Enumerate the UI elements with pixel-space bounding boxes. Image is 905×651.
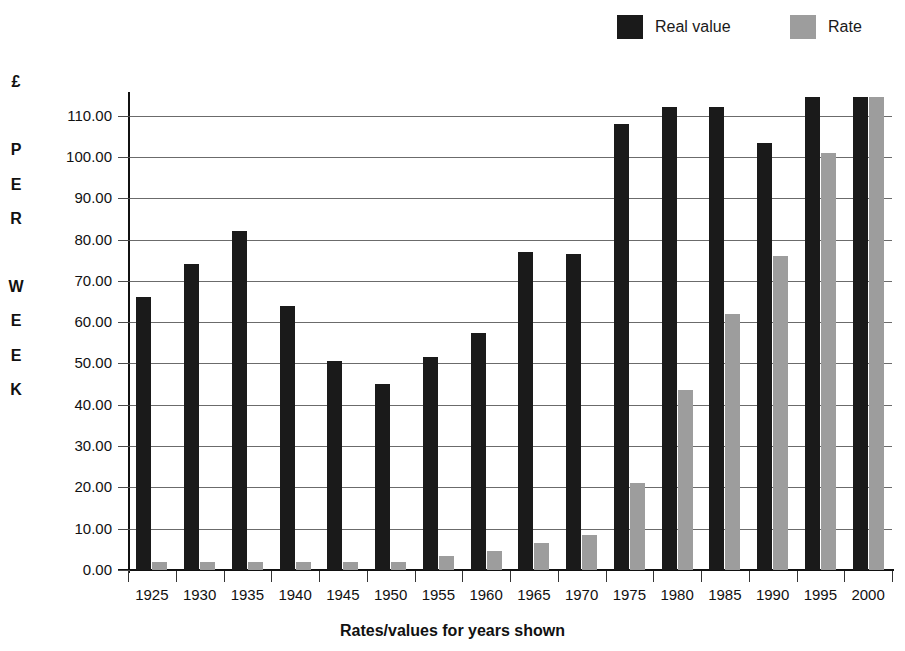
bar-real-value-1925 [136, 297, 151, 570]
x-axis-tick [367, 571, 368, 582]
x-axis-tick-label-1985: 1985 [708, 586, 741, 603]
x-axis-ticks [128, 571, 892, 583]
bar-real-value-1970 [566, 254, 581, 570]
y-axis-tick-30.00 [118, 446, 130, 447]
x-axis-tick [892, 571, 893, 582]
x-axis-tick [844, 571, 845, 582]
y-axis-tick-110.00 [118, 116, 130, 117]
x-axis-tick [510, 571, 511, 582]
y-axis-tick-label: 100.00 [28, 148, 112, 165]
bar-rate-1945 [343, 562, 358, 570]
bar-rate-1995 [821, 153, 836, 570]
bar-rate-1980 [678, 390, 693, 570]
x-axis-tick [701, 571, 702, 582]
bar-real-value-1975 [614, 124, 629, 570]
y-axis-tick-label: 40.00 [28, 396, 112, 413]
x-axis-tick [128, 571, 129, 582]
y-axis-tick-labels: 0.0010.0020.0030.0040.0050.0060.0070.008… [18, 95, 112, 570]
legend-item-real-value: Real value [617, 14, 731, 40]
y-axis-tick-label: 10.00 [28, 520, 112, 537]
bar-rate-1950 [391, 562, 406, 570]
x-axis-tick [606, 571, 607, 582]
bar-real-value-1995 [805, 97, 820, 570]
bar-real-value-1965 [518, 252, 533, 570]
y-axis-tick-label: 20.00 [28, 478, 112, 495]
bar-real-value-1960 [471, 333, 486, 571]
bar-rate-2000 [869, 97, 884, 570]
bar-rate-1990 [773, 256, 788, 570]
bar-rate-1940 [296, 562, 311, 570]
x-axis-tick [415, 571, 416, 582]
y-axis-tick-label: 90.00 [28, 189, 112, 206]
legend-swatch-gray-icon [790, 15, 816, 39]
bar-rate-1930 [200, 562, 215, 570]
bar-real-value-1980 [662, 107, 677, 570]
bar-rate-1975 [630, 483, 645, 570]
x-axis-tick-label-2000: 2000 [851, 586, 884, 603]
x-axis-tick-label-1945: 1945 [326, 586, 359, 603]
x-axis-tick [558, 571, 559, 582]
y-axis-tick-50.00 [118, 363, 130, 364]
bar-rate-1955 [439, 556, 454, 570]
bar-rate-1965 [534, 543, 549, 570]
legend-item-rate: Rate [790, 14, 862, 40]
bar-rate-1970 [582, 535, 597, 570]
legend-swatch-black-icon [617, 15, 643, 39]
x-axis-tick-label-1965: 1965 [517, 586, 550, 603]
y-axis-tick-80.00 [118, 240, 130, 241]
y-axis-tick-label: 70.00 [28, 272, 112, 289]
x-axis-tick [224, 571, 225, 582]
x-axis-title: Rates/values for years shown [0, 622, 905, 640]
y-axis-tick-label: 50.00 [28, 354, 112, 371]
y-axis-tick-20.00 [118, 487, 130, 488]
bar-rate-1960 [487, 551, 502, 570]
y-axis-tick-90.00 [118, 198, 130, 199]
y-axis-tick-40.00 [118, 405, 130, 406]
bar-real-value-1930 [184, 264, 199, 570]
bar-real-value-1935 [232, 231, 247, 570]
x-axis-tick-label-1935: 1935 [231, 586, 264, 603]
bar-rate-1925 [152, 562, 167, 570]
x-axis-tick-label-1950: 1950 [374, 586, 407, 603]
x-axis-tick [749, 571, 750, 582]
x-axis-tick-label-1990: 1990 [756, 586, 789, 603]
x-axis-tick [319, 571, 320, 582]
y-axis-tick-100.00 [118, 157, 130, 158]
y-axis-tick-label: 80.00 [28, 231, 112, 248]
x-axis-tick [797, 571, 798, 582]
x-axis-tick-label-1980: 1980 [660, 586, 693, 603]
bar-real-value-1990 [757, 143, 772, 571]
chart-legend: Real value Rate [0, 10, 905, 44]
x-axis-tick [653, 571, 654, 582]
y-axis-tick-label: 30.00 [28, 437, 112, 454]
x-axis-tick [176, 571, 177, 582]
bar-rate-1985 [725, 314, 740, 570]
bar-rate-1935 [248, 562, 263, 570]
bar-real-value-1950 [375, 384, 390, 570]
x-axis-tick-label-1955: 1955 [422, 586, 455, 603]
bar-real-value-1955 [423, 357, 438, 570]
y-axis-tick-label: 110.00 [28, 107, 112, 124]
bar-real-value-1945 [327, 361, 342, 570]
y-axis-tick-70.00 [118, 281, 130, 282]
x-axis-tick-label-1930: 1930 [183, 586, 216, 603]
x-axis-tick-label-1940: 1940 [278, 586, 311, 603]
y-axis-tick-label: 60.00 [28, 313, 112, 330]
x-axis-tick-label-1975: 1975 [613, 586, 646, 603]
bar-real-value-1985 [709, 107, 724, 570]
y-axis-tick-label: 0.00 [28, 561, 112, 578]
legend-label-real-value: Real value [655, 18, 731, 36]
x-axis-tick [462, 571, 463, 582]
y-axis-tick-0.00 [118, 570, 130, 571]
x-axis-tick-labels: 1925193019351940194519501955196019651970… [128, 586, 892, 608]
x-axis-tick-label-1995: 1995 [804, 586, 837, 603]
x-axis-tick-label-1970: 1970 [565, 586, 598, 603]
y-axis-tick-10.00 [118, 529, 130, 530]
x-axis-tick-label-1960: 1960 [469, 586, 502, 603]
x-axis-tick [271, 571, 272, 582]
y-axis-tick-60.00 [118, 322, 130, 323]
bar-real-value-2000 [853, 97, 868, 570]
x-axis-tick-label-1925: 1925 [135, 586, 168, 603]
bar-real-value-1940 [280, 306, 295, 570]
legend-label-rate: Rate [828, 18, 862, 36]
